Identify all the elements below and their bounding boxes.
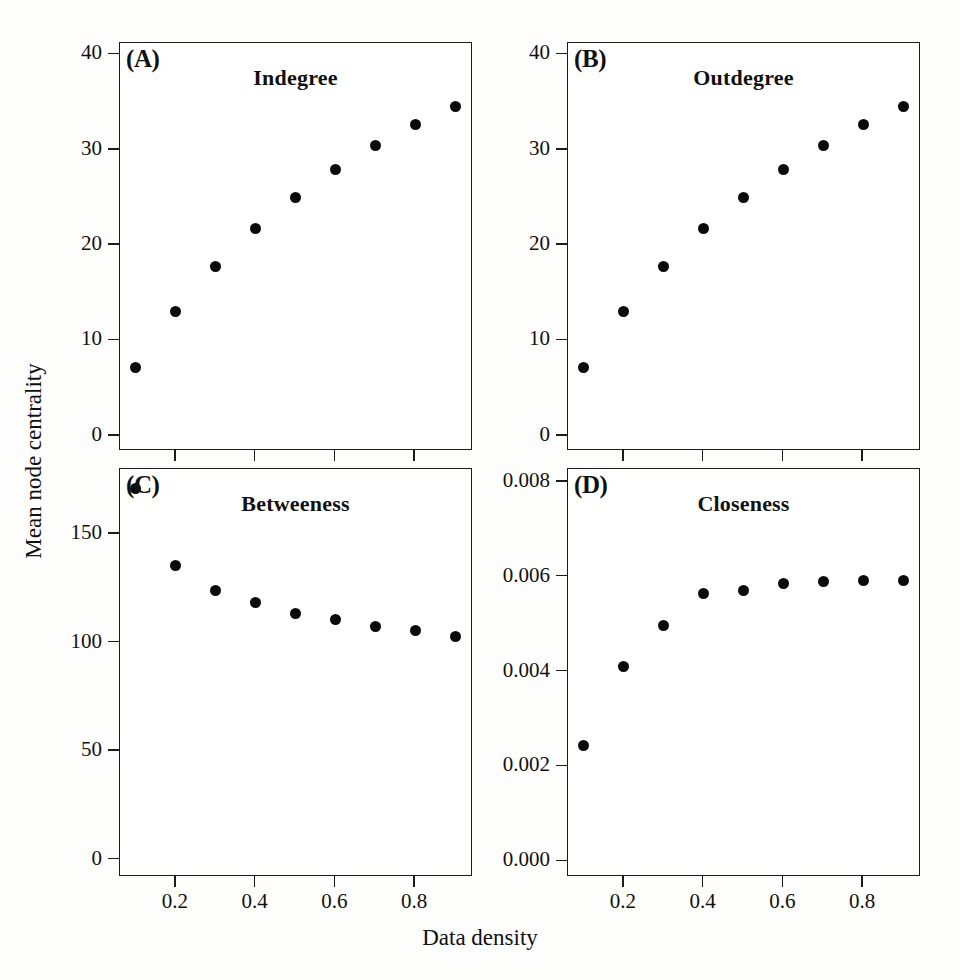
x-axis-tick: [861, 876, 863, 887]
panel-d-title: Closeness: [568, 491, 919, 517]
y-axis-tick-label: 30: [2, 138, 102, 159]
data-point: [170, 306, 181, 317]
data-point: [738, 585, 749, 596]
x-axis-tick: [413, 450, 415, 461]
y-axis-tick-label: 10: [2, 328, 102, 349]
y-axis-tick: [556, 860, 567, 862]
data-point: [370, 621, 381, 632]
data-point: [618, 306, 629, 317]
panel-a-indegree: (A) Indegree: [119, 42, 472, 450]
y-axis-tick-label: 0.004: [450, 660, 550, 681]
panel-c-title: Betweeness: [120, 491, 471, 517]
panel-c-plot-area: [120, 469, 471, 875]
data-point: [210, 261, 221, 272]
data-point: [170, 560, 181, 571]
y-axis-tick-label: 0: [2, 848, 102, 869]
y-axis-tick-label: 50: [2, 739, 102, 760]
data-point: [618, 661, 629, 672]
data-point: [898, 575, 909, 586]
panel-c-betweeness: (C) Betweeness: [119, 468, 472, 876]
y-axis-tick-label: 30: [450, 138, 550, 159]
data-point: [330, 614, 341, 625]
x-axis-tick: [413, 876, 415, 887]
y-axis-tick: [108, 641, 119, 643]
data-point: [290, 192, 301, 203]
data-point: [778, 578, 789, 589]
x-axis-tick: [174, 876, 176, 887]
y-axis-tick: [556, 670, 567, 672]
x-axis-tick: [622, 876, 624, 887]
panel-b-title: Outdegree: [568, 65, 919, 91]
panel-a-plot-area: [120, 43, 471, 449]
data-point: [698, 223, 709, 234]
panel-b-plot-area: [568, 43, 919, 449]
x-axis-tick: [174, 450, 176, 461]
data-point: [858, 119, 869, 130]
data-point: [450, 101, 461, 112]
y-axis-tick-label: 150: [2, 522, 102, 543]
y-axis-tick: [108, 749, 119, 751]
y-axis-tick: [556, 339, 567, 341]
y-axis-tick-label: 0.006: [450, 565, 550, 586]
figure-canvas: (A) Indegree (B) Outdegree (C) Betweenes…: [0, 0, 960, 980]
data-point: [898, 101, 909, 112]
y-axis-tick-label: 100: [2, 631, 102, 652]
data-point: [130, 362, 141, 373]
y-axis-tick: [108, 148, 119, 150]
y-axis-tick-label: 0.000: [450, 849, 550, 870]
data-point: [370, 140, 381, 151]
y-axis-tick-label: 20: [450, 233, 550, 254]
data-point: [738, 192, 749, 203]
y-axis-tick-label: 10: [450, 328, 550, 349]
data-point: [658, 620, 669, 631]
x-axis-tick: [334, 876, 336, 887]
x-axis-tick: [702, 450, 704, 461]
y-axis-tick: [556, 243, 567, 245]
x-axis-tick: [702, 876, 704, 887]
data-point: [818, 576, 829, 587]
panel-d-plot-area: [568, 469, 919, 875]
y-axis-tick: [556, 765, 567, 767]
y-axis-tick: [556, 53, 567, 55]
y-axis-tick: [108, 53, 119, 55]
x-axis-tick: [622, 450, 624, 461]
data-point: [290, 608, 301, 619]
x-axis-tick: [334, 450, 336, 461]
y-axis-tick-label: 0: [450, 424, 550, 445]
data-point: [858, 575, 869, 586]
panel-b-outdegree: (B) Outdegree: [567, 42, 920, 450]
x-axis-tick: [254, 876, 256, 887]
data-point: [410, 119, 421, 130]
data-point: [250, 223, 261, 234]
data-point: [578, 740, 589, 751]
data-point: [330, 164, 341, 175]
x-axis-tick: [861, 450, 863, 461]
y-axis-tick: [556, 575, 567, 577]
x-axis-tick: [782, 450, 784, 461]
x-axis-tick: [782, 876, 784, 887]
x-axis-tick: [254, 450, 256, 461]
data-point: [410, 625, 421, 636]
data-point: [210, 585, 221, 596]
y-axis-tick: [108, 434, 119, 436]
x-axis-tick-label: 0.8: [354, 891, 474, 912]
data-point: [698, 588, 709, 599]
data-point: [578, 362, 589, 373]
x-axis-label: Data density: [0, 925, 960, 951]
y-axis-tick-label: 0.008: [450, 470, 550, 491]
y-axis-tick: [556, 434, 567, 436]
panel-d-closeness: (D) Closeness: [567, 468, 920, 876]
y-axis-tick-label: 40: [450, 42, 550, 63]
y-axis-tick-label: 0.002: [450, 754, 550, 775]
y-axis-label: Mean node centrality: [21, 311, 47, 611]
data-point: [778, 164, 789, 175]
data-point: [818, 140, 829, 151]
y-axis-tick: [556, 148, 567, 150]
y-axis-tick-label: 0: [2, 424, 102, 445]
x-axis-tick-label: 0.8: [802, 891, 922, 912]
data-point: [450, 631, 461, 642]
y-axis-tick: [556, 480, 567, 482]
y-axis-tick-label: 40: [2, 42, 102, 63]
y-axis-tick: [108, 532, 119, 534]
y-axis-tick: [108, 858, 119, 860]
